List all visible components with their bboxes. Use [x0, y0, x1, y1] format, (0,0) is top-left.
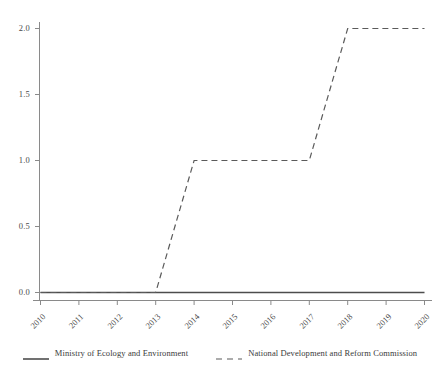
y-tick-label-1: 1.0 — [8, 155, 30, 165]
y-tick-label-0: 0.0 — [8, 287, 30, 297]
y-tick-label-1point5: 1.5 — [8, 89, 30, 99]
legend-label-ministry-of-ecology-and-environment: Ministry of Ecology and Environment — [55, 348, 188, 358]
y-tick-label-0point5: 0.5 — [8, 221, 30, 231]
series-line-national-development-and-reform-commission — [41, 29, 425, 293]
x-axis-ticks — [41, 301, 425, 306]
plot-area — [0, 0, 440, 371]
y-tick-label-2: 2.0 — [8, 23, 30, 33]
y-axis-ticks — [35, 29, 40, 293]
legend-dashed-line-icon — [216, 349, 242, 357]
legend-entry-national-development-and-reform-commission[interactable]: National Development and Reform Commissi… — [216, 348, 417, 358]
chart-container: 2.0 1.5 1.0 0.5 0.0 2010 2011 2012 2013 … — [0, 0, 440, 371]
chart-legend: Ministry of Ecology and Environment Nati… — [0, 342, 440, 364]
legend-label-national-development-and-reform-commission: National Development and Reform Commissi… — [248, 348, 417, 358]
legend-solid-line-icon — [23, 349, 49, 357]
legend-entry-ministry-of-ecology-and-environment[interactable]: Ministry of Ecology and Environment — [23, 348, 188, 358]
